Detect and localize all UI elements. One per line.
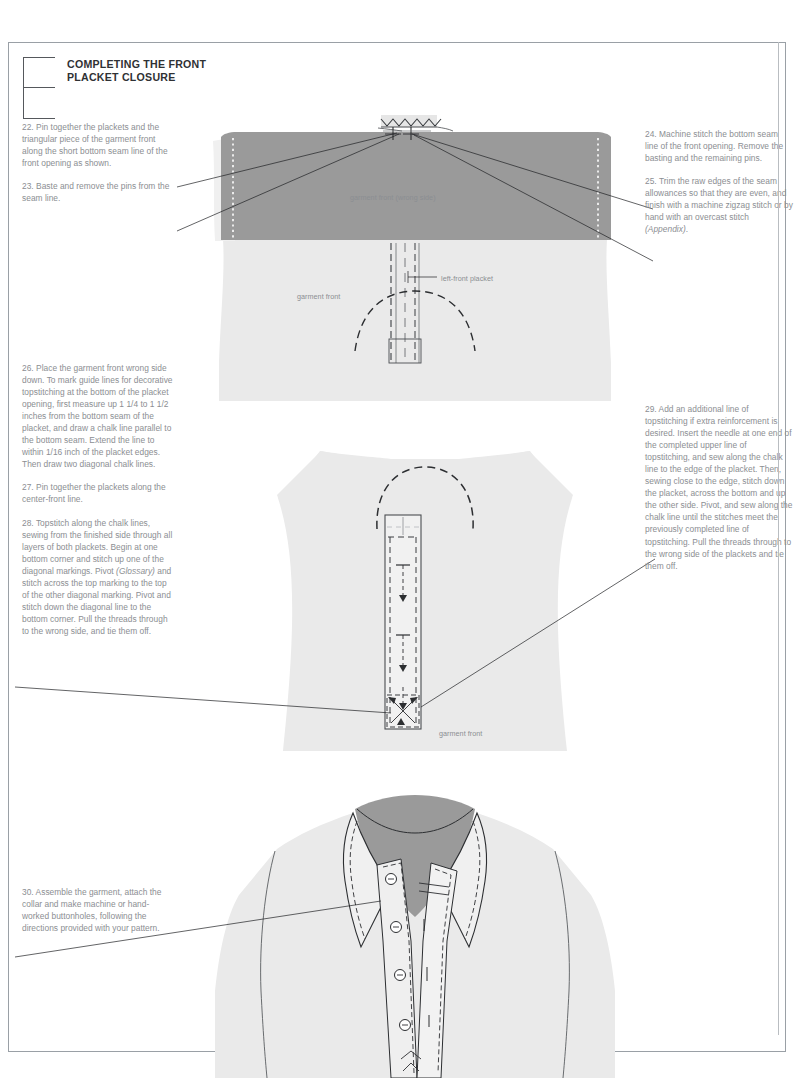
step-25: 25. Trim the raw edges of the seam allow…	[645, 175, 793, 235]
side-cutout-right	[558, 495, 601, 751]
page-title: COMPLETING THE FRONT PLACKET CLOSURE	[67, 58, 206, 84]
figure-1-label-left-front-placket: left-front placket	[441, 274, 493, 283]
step-23: 23. Baste and remove the pins from the s…	[22, 180, 174, 204]
instructions-right-top: 24. Machine stitch the bottom seam line …	[645, 128, 793, 235]
step-25-reference: (Appendix)	[645, 224, 686, 234]
garment-torso	[277, 451, 573, 751]
bracket-ornament-icon	[23, 57, 55, 119]
step-28-part2: and stitch across the top marking to the…	[22, 566, 171, 636]
figure-topstitched-placket: garment front	[225, 439, 625, 769]
step-30: 30. Assemble the garment, attach the col…	[22, 886, 174, 934]
step-25-text: 25. Trim the raw edges of the seam allow…	[645, 176, 793, 222]
figure-finished-shirt	[205, 791, 625, 1078]
step-28-reference: (Glossary)	[116, 566, 155, 576]
step-25-tail: .	[686, 224, 688, 234]
side-cutout-left	[251, 495, 292, 751]
instructions-right-middle: 29. Add an additional line of topstitchi…	[645, 403, 793, 572]
figure-3-svg	[205, 791, 625, 1078]
step-27: 27. Pin together the plackets along the …	[22, 481, 174, 505]
figure-2-label-garment-front: garment front	[439, 729, 482, 738]
figure-1-label-garment-front: garment front	[297, 292, 340, 301]
figure-1-label-wrong-side: garment front (wrong side)	[350, 193, 436, 202]
figure-pinned-placket: garment front (wrong side) garment front…	[205, 101, 625, 401]
figure-1-svg	[205, 101, 625, 401]
step-26: 26. Place the garment front wrong side d…	[22, 362, 174, 470]
right-margin-rule	[778, 42, 779, 1035]
figure-2-svg	[225, 439, 625, 769]
step-28: 28. Topstitch along the chalk lines, sew…	[22, 517, 174, 637]
instructions-left-top: 22. Pin together the plackets and the tr…	[22, 121, 174, 204]
step-22: 22. Pin together the plackets and the tr…	[22, 121, 174, 169]
step-24: 24. Machine stitch the bottom seam line …	[645, 128, 793, 164]
instructions-left-bottom: 30. Assemble the garment, attach the col…	[22, 886, 174, 934]
instructions-left-middle: 26. Place the garment front wrong side d…	[22, 362, 174, 637]
step-29: 29. Add an additional line of topstitchi…	[645, 403, 793, 572]
